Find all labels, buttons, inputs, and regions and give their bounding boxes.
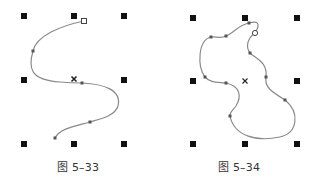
figure-5-34: 图 5–34 [156, 0, 312, 178]
selection-handle-icon[interactable] [190, 78, 196, 84]
selection-handle-icon[interactable] [21, 141, 27, 147]
curve-node-icon[interactable] [225, 82, 228, 85]
curve-node-icon[interactable] [265, 76, 268, 79]
curve-node-icon[interactable] [225, 35, 228, 38]
figure-caption: 图 5–34 [218, 158, 260, 174]
center-x-icon [72, 77, 77, 82]
selection-handle-icon[interactable] [71, 13, 77, 19]
center-x-icon [243, 79, 248, 84]
curve-canvas-right [156, 0, 312, 178]
curve-node-icon[interactable] [210, 36, 213, 39]
curve-node-icon[interactable] [54, 137, 57, 140]
selection-handle-icon[interactable] [71, 141, 77, 147]
selection-handle-icon[interactable] [294, 141, 300, 147]
curve-node-icon[interactable] [249, 52, 252, 55]
curve-node-icon[interactable] [229, 115, 232, 118]
start-node-icon[interactable] [252, 30, 257, 35]
selection-handle-icon[interactable] [242, 141, 248, 147]
curve-node-icon[interactable] [81, 82, 84, 85]
curve-node-icon[interactable] [89, 121, 92, 124]
start-node-icon[interactable] [82, 19, 87, 24]
selection-handle-icon[interactable] [21, 13, 27, 19]
figure-5-33: 图 5–33 [0, 0, 156, 178]
curve-node-icon[interactable] [32, 50, 35, 53]
selection-handle-icon[interactable] [242, 15, 248, 21]
selection-handle-icon[interactable] [121, 13, 127, 19]
selection-handle-icon[interactable] [190, 15, 196, 21]
selection-handle-icon[interactable] [121, 141, 127, 147]
curve-node-icon[interactable] [284, 99, 287, 102]
selection-handle-icon[interactable] [121, 77, 127, 83]
selection-handle-icon[interactable] [21, 77, 27, 83]
selection-handle-icon[interactable] [190, 141, 196, 147]
curve-canvas-left [0, 0, 156, 178]
figure-caption: 图 5–33 [57, 158, 99, 174]
closed-curve-path [200, 22, 295, 138]
curve-nodes [204, 22, 287, 118]
curve-nodes [32, 19, 92, 140]
selection-handle-icon[interactable] [294, 78, 300, 84]
curve-node-icon[interactable] [204, 76, 207, 79]
curve-node-icon[interactable] [248, 22, 251, 25]
selection-handle-icon[interactable] [294, 15, 300, 21]
